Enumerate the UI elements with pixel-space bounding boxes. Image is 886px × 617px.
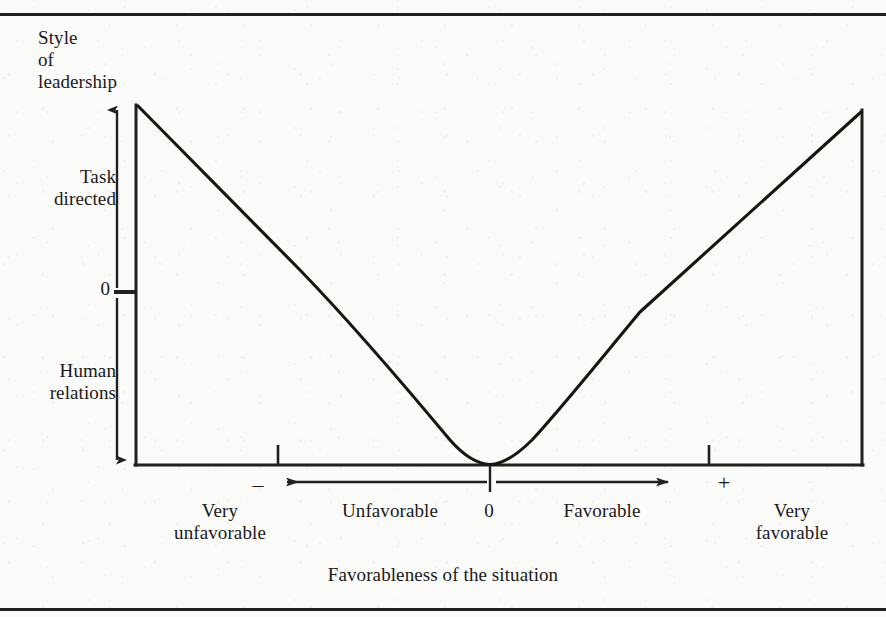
figure-container: Style of leadership Task directed Human …	[0, 0, 886, 617]
plot-drawing	[0, 0, 886, 617]
leadership-curve	[138, 106, 861, 465]
